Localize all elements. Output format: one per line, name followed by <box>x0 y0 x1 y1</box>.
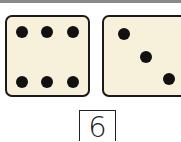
pip <box>118 28 130 40</box>
die-three <box>102 15 181 97</box>
pip <box>41 76 53 88</box>
answer-value: 6 <box>88 113 106 142</box>
top-divider <box>0 0 181 3</box>
pip <box>67 26 79 38</box>
pip <box>16 26 28 38</box>
pip <box>140 51 152 63</box>
answer-box[interactable]: 6 <box>79 110 116 141</box>
pip <box>163 73 175 85</box>
die-six <box>5 15 90 97</box>
pip <box>16 76 28 88</box>
pip <box>41 26 53 38</box>
pip <box>67 76 79 88</box>
